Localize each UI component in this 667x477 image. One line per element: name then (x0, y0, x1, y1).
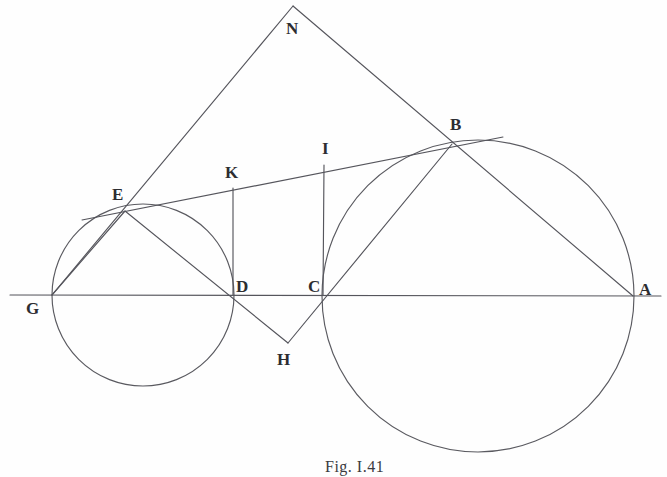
point-label-K: K (225, 164, 238, 181)
line-G-E-N (52, 6, 293, 295)
point-label-I: I (322, 140, 329, 157)
point-label-E: E (112, 186, 123, 203)
point-label-G: G (26, 300, 39, 317)
point-label-D: D (236, 278, 248, 295)
point-label-C: C (308, 278, 320, 295)
line-N-B-A (293, 6, 633, 296)
line-E-D-H (125, 211, 288, 343)
tangent-line-E-K-I-B (82, 137, 503, 220)
point-label-B: B (450, 116, 461, 133)
figure-canvas (0, 0, 667, 477)
point-label-A: A (639, 281, 651, 298)
chord-G-E (52, 211, 125, 295)
baseline-G-A (10, 295, 661, 296)
geometry-figure: N B I K E D C G A H Fig. I.41 (0, 0, 667, 477)
point-label-N: N (286, 20, 298, 37)
figure-caption: Fig. I.41 (325, 458, 384, 476)
line-H-C-B (288, 144, 452, 343)
point-label-H: H (277, 351, 290, 368)
